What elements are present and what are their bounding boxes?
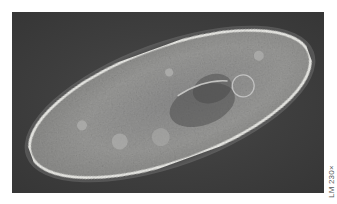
magnification-label: LM 230×	[327, 165, 336, 198]
micrograph-photo	[12, 12, 324, 193]
paramecium-cell	[12, 12, 324, 193]
